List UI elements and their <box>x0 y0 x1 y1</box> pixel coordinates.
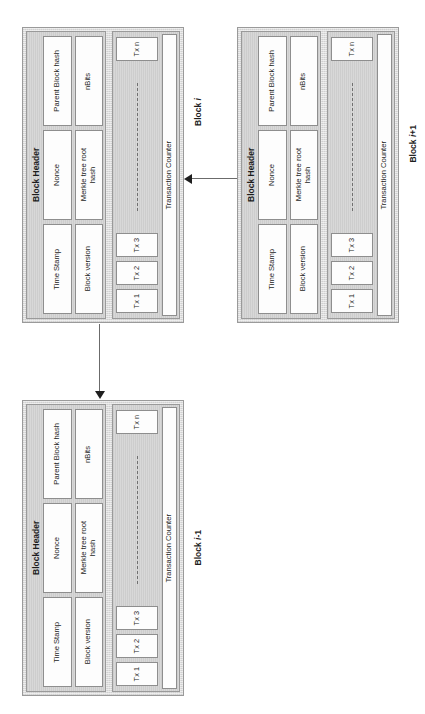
block-i-caption: Block i <box>193 98 203 126</box>
transaction-counter[interactable]: Transaction Counter <box>162 407 177 689</box>
block-i-tx-inner: Transaction Counter Tx 1 Tx 2 Tx 3 Tx n <box>115 34 177 316</box>
tx-item[interactable]: Tx 1 <box>116 662 158 686</box>
tx-item[interactable]: Tx 3 <box>116 233 158 257</box>
tx-item[interactable]: Tx 2 <box>116 634 158 658</box>
link-i-to-iminus1-arrowhead <box>95 391 105 399</box>
block-i-plus-1-tx-inner: Transaction Counter Tx 1 Tx 2 Tx 3 Tx n <box>330 34 392 316</box>
block-i-plus-1-transactions-pane: Transaction Counter Tx 1 Tx 2 Tx 3 Tx n <box>327 31 395 319</box>
block-i-plus-1-header-title: Block Header <box>245 32 258 318</box>
block-i-header-title: Block Header <box>30 32 43 318</box>
block-i-header-col-2: Time Stamp Nonce Parent Block hash <box>43 34 72 316</box>
tx-item[interactable]: Tx n <box>116 37 158 61</box>
block-i-header-fields: Block version Merkle tree root hash nBit… <box>43 34 103 316</box>
block-i-plus-1-header-col-2: Time Stamp Nonce Parent Block hash <box>258 34 287 316</box>
field-time-stamp[interactable]: Time Stamp <box>43 224 72 314</box>
tx-ellipsis-dashes <box>116 438 158 602</box>
field-time-stamp[interactable]: Time Stamp <box>43 597 72 687</box>
block-i-tx-list: Tx 1 Tx 2 Tx 3 Tx n <box>115 34 159 316</box>
tx-item[interactable]: Tx 1 <box>331 289 373 313</box>
tx-item[interactable]: Tx n <box>116 410 158 434</box>
block-i-minus-1-transactions-pane: Transaction Counter Tx 1 Tx 2 Tx 3 Tx n <box>112 404 180 692</box>
field-nonce[interactable]: Nonce <box>43 130 72 220</box>
block-i-minus-1[interactable]: Block Header Block version Merkle tree r… <box>22 400 184 696</box>
link-iplus1-to-i-line <box>191 178 237 179</box>
field-block-version[interactable]: Block version <box>290 224 319 314</box>
block-i-minus-1-tx-list: Tx 1 Tx 2 Tx 3 Tx n <box>115 407 159 689</box>
field-parent-block-hash[interactable]: Parent Block hash <box>43 36 72 126</box>
field-merkle-root[interactable]: Merkle tree root hash <box>75 130 104 220</box>
block-i-plus-1-header-col-1: Block version Merkle tree root hash nBit… <box>290 34 319 316</box>
field-nbits[interactable]: nBits <box>75 36 104 126</box>
field-merkle-root[interactable]: Merkle tree root hash <box>75 503 104 593</box>
block-i-plus-1-caption: Block i+1 <box>408 125 418 163</box>
tx-item[interactable]: Tx 3 <box>116 606 158 630</box>
field-nbits[interactable]: nBits <box>290 36 319 126</box>
tx-item[interactable]: Tx 1 <box>116 289 158 313</box>
block-i-header-pane: Block Header Block version Merkle tree r… <box>26 31 106 319</box>
tx-item[interactable]: Tx 2 <box>331 261 373 285</box>
field-block-version[interactable]: Block version <box>75 597 104 687</box>
transaction-counter[interactable]: Transaction Counter <box>377 34 392 316</box>
block-i-minus-1-header-col-1: Block version Merkle tree root hash nBit… <box>75 407 104 689</box>
field-nbits[interactable]: nBits <box>75 409 104 499</box>
block-i-plus-1-header-fields: Block version Merkle tree root hash nBit… <box>258 34 318 316</box>
tx-item[interactable]: Tx n <box>331 37 373 61</box>
block-i-minus-1-header-col-2: Time Stamp Nonce Parent Block hash <box>43 407 72 689</box>
link-iplus1-to-i-arrowhead <box>184 174 192 184</box>
block-i-header-col-1: Block version Merkle tree root hash nBit… <box>75 34 104 316</box>
tx-ellipsis-dashes <box>116 65 158 229</box>
field-block-version[interactable]: Block version <box>75 224 104 314</box>
diagram-canvas: Block Header Block version Merkle tree r… <box>0 0 425 714</box>
link-i-to-iminus1-line <box>99 324 100 392</box>
block-i-minus-1-header-fields: Block version Merkle tree root hash nBit… <box>43 407 103 689</box>
block-i-minus-1-tx-inner: Transaction Counter Tx 1 Tx 2 Tx 3 Tx n <box>115 407 177 689</box>
block-i-plus-1-header-pane: Block Header Block version Merkle tree r… <box>241 31 321 319</box>
tx-item[interactable]: Tx 2 <box>116 261 158 285</box>
field-parent-block-hash[interactable]: Parent Block hash <box>258 36 287 126</box>
field-time-stamp[interactable]: Time Stamp <box>258 224 287 314</box>
field-nonce[interactable]: Nonce <box>43 503 72 593</box>
block-i[interactable]: Block Header Block version Merkle tree r… <box>22 27 184 323</box>
block-i-transactions-pane: Transaction Counter Tx 1 Tx 2 Tx 3 Tx n <box>112 31 180 319</box>
field-merkle-root[interactable]: Merkle tree root hash <box>290 130 319 220</box>
block-i-minus-1-header-title: Block Header <box>30 405 43 691</box>
block-i-plus-1[interactable]: Block Header Block version Merkle tree r… <box>237 27 399 323</box>
field-nonce[interactable]: Nonce <box>258 130 287 220</box>
block-i-minus-1-caption: Block i-1 <box>193 530 203 565</box>
transaction-counter[interactable]: Transaction Counter <box>162 34 177 316</box>
tx-item[interactable]: Tx 3 <box>331 233 373 257</box>
block-i-minus-1-header-pane: Block Header Block version Merkle tree r… <box>26 404 106 692</box>
field-parent-block-hash[interactable]: Parent Block hash <box>43 409 72 499</box>
tx-ellipsis-dashes <box>331 65 373 229</box>
block-i-plus-1-tx-list: Tx 1 Tx 2 Tx 3 Tx n <box>330 34 374 316</box>
